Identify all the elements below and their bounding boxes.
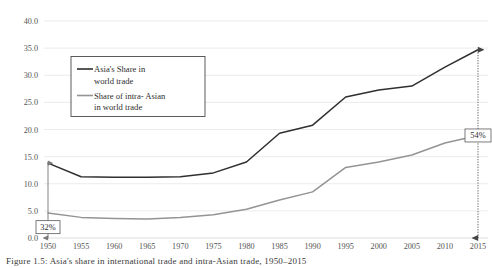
chart-legend: Asia's Share in world trade Share of int… bbox=[71, 57, 205, 117]
legend-label-intra-asian-line2: in world trade bbox=[94, 102, 142, 112]
y-axis-tick-label: 5.0 bbox=[28, 207, 38, 216]
y-axis-tick-label: 35.0 bbox=[24, 44, 38, 53]
figure-container: 0.05.010.015.020.025.030.035.040.0 19501… bbox=[0, 0, 492, 268]
figure-caption: Figure 1.5: Asia's share in internationa… bbox=[6, 256, 307, 266]
annotation-label-1950: 32% bbox=[40, 223, 55, 232]
x-axis-tick-labels: 1950195519601965197019751980198519901995… bbox=[40, 242, 486, 251]
x-axis-tick-label: 2000 bbox=[371, 242, 387, 251]
annotation-54-percent: 54% bbox=[465, 50, 491, 238]
annotation-32-percent: 32% bbox=[36, 163, 60, 238]
x-axis-tick-label: 1980 bbox=[238, 242, 254, 251]
y-axis-tick-labels: 0.05.010.015.020.025.030.035.040.0 bbox=[24, 17, 38, 243]
y-axis-tick-label: 15.0 bbox=[24, 153, 38, 162]
y-axis-tick-label: 20.0 bbox=[24, 126, 38, 135]
x-axis-tick-label: 2010 bbox=[437, 242, 453, 251]
line-chart: 0.05.010.015.020.025.030.035.040.0 19501… bbox=[0, 0, 492, 256]
legend-label-asia-share-line1: Asia's Share in bbox=[94, 64, 146, 74]
x-axis-tick-label: 1955 bbox=[73, 242, 89, 251]
x-axis-tick-label: 2015 bbox=[470, 242, 486, 251]
y-axis-tick-label: 25.0 bbox=[24, 98, 38, 107]
y-axis-tick-label: 10.0 bbox=[24, 180, 38, 189]
x-axis-tick-label: 1970 bbox=[172, 242, 188, 251]
x-axis-tick-label: 1975 bbox=[205, 242, 221, 251]
legend-label-asia-share-line2: world trade bbox=[94, 76, 134, 86]
annotation-label-2015: 54% bbox=[470, 131, 485, 140]
x-axis-tick-label: 1950 bbox=[40, 242, 56, 251]
x-axis-tick-label: 1985 bbox=[271, 242, 287, 251]
x-axis-tick-label: 1960 bbox=[106, 242, 122, 251]
y-axis-tick-label: 30.0 bbox=[24, 71, 38, 80]
x-axis-tick-label: 2005 bbox=[404, 242, 420, 251]
x-axis-tick-label: 1965 bbox=[139, 242, 155, 251]
x-axis-tick-label: 1990 bbox=[304, 242, 320, 251]
y-axis-tick-label: 0.0 bbox=[28, 234, 38, 243]
x-axis-tick-label: 1995 bbox=[338, 242, 354, 251]
y-axis-tick-label: 40.0 bbox=[24, 17, 38, 26]
legend-label-intra-asian-line1: Share of intra- Asian bbox=[94, 91, 166, 101]
gridlines bbox=[44, 21, 488, 238]
